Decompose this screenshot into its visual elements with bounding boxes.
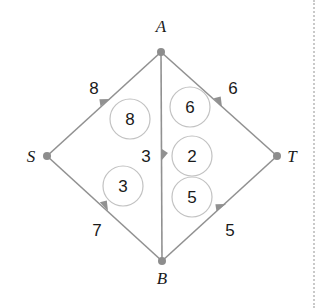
arrow-head-A-B — [161, 149, 168, 161]
flow-value-A-B: 2 — [187, 147, 196, 166]
flow-value-A-T: 6 — [185, 98, 194, 117]
diagram-canvas: A S T B 8 6 3 7 5 8 6 2 3 5 — [0, 0, 320, 308]
flow-values-group: 8 6 2 3 5 — [118, 98, 196, 207]
edge-capacity-A-B: 3 — [141, 147, 150, 166]
page-margin-rule — [313, 0, 315, 308]
node-label-B: B — [157, 269, 168, 288]
edge-capacity-S-A: 8 — [89, 79, 98, 98]
edge-capacity-A-T: 6 — [228, 79, 237, 98]
flow-value-S-A: 8 — [125, 110, 134, 129]
edge-capacity-B-T: 5 — [225, 221, 234, 240]
node-dot-A[interactable] — [157, 48, 165, 56]
flow-network-diagram: A S T B 8 6 3 7 5 8 6 2 3 5 — [0, 0, 320, 308]
node-label-S: S — [27, 147, 36, 166]
flow-value-S-B: 3 — [118, 177, 127, 196]
node-label-T: T — [287, 147, 298, 166]
flow-value-B-T: 5 — [187, 188, 196, 207]
edge-line-S-B — [47, 156, 162, 261]
node-dot-T[interactable] — [273, 152, 281, 160]
node-dot-S[interactable] — [43, 152, 51, 160]
edge-line-A-T — [161, 52, 277, 156]
edge-capacity-S-B: 7 — [92, 221, 101, 240]
node-dot-B[interactable] — [158, 257, 166, 265]
arrow-head-B-T — [212, 199, 226, 212]
node-label-A: A — [155, 17, 167, 36]
